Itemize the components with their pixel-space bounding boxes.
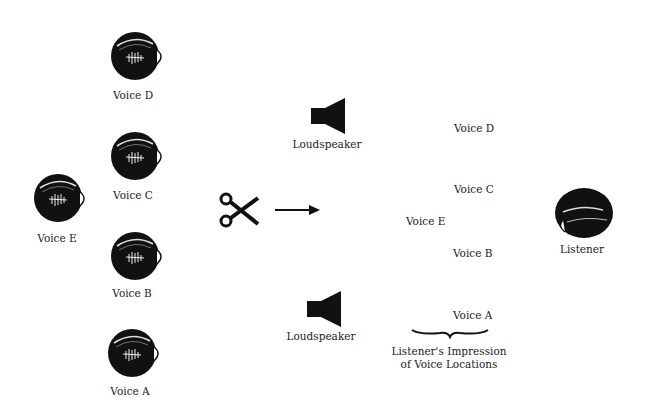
impression-voice-c: Voice C <box>454 183 494 195</box>
impression-voice-a: Voice A <box>453 309 492 321</box>
brace-icon <box>410 327 490 339</box>
impression-voice-e: Voice E <box>406 215 445 227</box>
voice-a-source <box>106 325 162 385</box>
voice-b-label: Voice B <box>112 287 151 299</box>
caption-line-1: Listener's Impression <box>391 345 506 358</box>
voice-b-source <box>109 228 165 288</box>
caption-line-2: of Voice Locations <box>391 358 506 371</box>
voice-c-label: Voice C <box>113 189 153 201</box>
loudspeaker-bottom-label: Loudspeaker <box>287 330 356 342</box>
impression-voice-d: Voice D <box>454 122 494 134</box>
listener-label: Listener <box>560 243 604 255</box>
head-icon <box>109 28 165 84</box>
head-icon <box>109 128 165 184</box>
impression-voice-b: Voice B <box>453 247 492 259</box>
listener-head-icon <box>553 186 615 242</box>
scissors-icon <box>218 192 262 228</box>
voice-e-source <box>32 170 88 230</box>
voice-a-label: Voice A <box>110 385 149 397</box>
head-icon <box>109 228 165 284</box>
voice-c-source <box>109 128 165 188</box>
impression-caption: Listener's Impression of Voice Locations <box>391 345 506 371</box>
head-icon <box>32 170 88 226</box>
voice-e-label: Voice E <box>37 232 76 244</box>
right-arrow-icon <box>275 204 321 216</box>
loudspeaker-icon <box>309 96 349 136</box>
head-icon <box>106 325 162 381</box>
voice-d-source <box>109 28 165 88</box>
loudspeaker-icon <box>305 289 345 329</box>
loudspeaker-top-label: Loudspeaker <box>293 138 362 150</box>
voice-d-label: Voice D <box>113 89 153 101</box>
